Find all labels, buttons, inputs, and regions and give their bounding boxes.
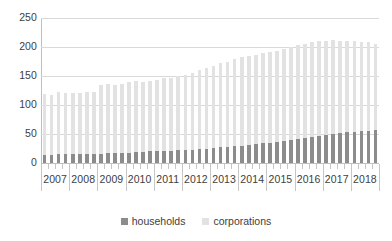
stacked-bar[interactable] bbox=[141, 18, 145, 163]
bar-segment-corporations[interactable] bbox=[64, 93, 68, 154]
stacked-bar[interactable] bbox=[268, 18, 272, 163]
bar-segment-corporations[interactable] bbox=[50, 95, 54, 155]
bar-segment-corporations[interactable] bbox=[212, 66, 216, 148]
stacked-bar[interactable] bbox=[331, 18, 335, 163]
bar-segment-households[interactable] bbox=[85, 154, 89, 163]
stacked-bar[interactable] bbox=[85, 18, 89, 163]
stacked-bar[interactable] bbox=[289, 18, 293, 163]
bar-segment-corporations[interactable] bbox=[78, 93, 82, 154]
bar-segment-corporations[interactable] bbox=[317, 41, 321, 136]
bar-segment-households[interactable] bbox=[317, 136, 321, 163]
bar-segment-households[interactable] bbox=[162, 151, 166, 163]
stacked-bar[interactable] bbox=[261, 18, 265, 163]
stacked-bar[interactable] bbox=[303, 18, 307, 163]
bar-segment-households[interactable] bbox=[155, 151, 159, 163]
bar-segment-households[interactable] bbox=[360, 131, 364, 163]
bar-segment-households[interactable] bbox=[331, 134, 335, 163]
stacked-bar[interactable] bbox=[247, 18, 251, 163]
stacked-bar[interactable] bbox=[155, 18, 159, 163]
stacked-bar[interactable] bbox=[148, 18, 152, 163]
bar-segment-corporations[interactable] bbox=[324, 41, 328, 136]
bar-segment-corporations[interactable] bbox=[353, 41, 357, 131]
bar-segment-corporations[interactable] bbox=[198, 70, 202, 149]
bar-segment-corporations[interactable] bbox=[113, 85, 117, 153]
bar-segment-households[interactable] bbox=[78, 154, 82, 163]
bar-segment-corporations[interactable] bbox=[247, 56, 251, 145]
stacked-bar[interactable] bbox=[43, 18, 47, 163]
bar-segment-corporations[interactable] bbox=[374, 44, 378, 130]
bar-segment-households[interactable] bbox=[99, 154, 103, 163]
stacked-bar[interactable] bbox=[296, 18, 300, 163]
bar-segment-households[interactable] bbox=[64, 154, 68, 163]
bar-segment-households[interactable] bbox=[219, 147, 223, 163]
bar-segment-corporations[interactable] bbox=[99, 85, 103, 153]
stacked-bar[interactable] bbox=[219, 18, 223, 163]
bar-segment-corporations[interactable] bbox=[191, 73, 195, 150]
stacked-bar[interactable] bbox=[212, 18, 216, 163]
stacked-bar[interactable] bbox=[240, 18, 244, 163]
bar-segment-corporations[interactable] bbox=[296, 45, 300, 139]
bar-segment-corporations[interactable] bbox=[205, 68, 209, 149]
bar-segment-households[interactable] bbox=[226, 147, 230, 163]
bar-segment-households[interactable] bbox=[233, 146, 237, 163]
stacked-bar[interactable] bbox=[198, 18, 202, 163]
stacked-bar[interactable] bbox=[317, 18, 321, 163]
bar-segment-households[interactable] bbox=[296, 139, 300, 163]
bar-segment-households[interactable] bbox=[198, 149, 202, 163]
bar-segment-corporations[interactable] bbox=[261, 53, 265, 143]
stacked-bar[interactable] bbox=[92, 18, 96, 163]
bar-segment-households[interactable] bbox=[289, 140, 293, 163]
bar-segment-households[interactable] bbox=[106, 153, 110, 163]
bar-segment-households[interactable] bbox=[247, 145, 251, 163]
bar-segment-households[interactable] bbox=[240, 146, 244, 163]
stacked-bar[interactable] bbox=[134, 18, 138, 163]
bar-segment-households[interactable] bbox=[268, 143, 272, 163]
stacked-bar[interactable] bbox=[205, 18, 209, 163]
bar-segment-corporations[interactable] bbox=[57, 92, 61, 154]
bar-segment-households[interactable] bbox=[43, 155, 47, 163]
stacked-bar[interactable] bbox=[113, 18, 117, 163]
stacked-bar[interactable] bbox=[64, 18, 68, 163]
bar-segment-corporations[interactable] bbox=[303, 44, 307, 139]
bar-segment-corporations[interactable] bbox=[43, 94, 47, 155]
bar-segment-corporations[interactable] bbox=[71, 93, 75, 154]
bar-segment-corporations[interactable] bbox=[219, 63, 223, 147]
stacked-bar[interactable] bbox=[360, 18, 364, 163]
bar-segment-households[interactable] bbox=[367, 131, 371, 163]
bar-segment-corporations[interactable] bbox=[169, 78, 173, 151]
bar-segment-corporations[interactable] bbox=[85, 92, 89, 155]
stacked-bar[interactable] bbox=[184, 18, 188, 163]
stacked-bar[interactable] bbox=[191, 18, 195, 163]
bar-segment-corporations[interactable] bbox=[268, 52, 272, 143]
bar-segment-corporations[interactable] bbox=[127, 82, 131, 152]
legend-item-households[interactable]: households bbox=[121, 215, 186, 227]
bar-segment-households[interactable] bbox=[303, 138, 307, 163]
bar-segment-corporations[interactable] bbox=[310, 42, 314, 137]
stacked-bar[interactable] bbox=[99, 18, 103, 163]
bar-segment-corporations[interactable] bbox=[141, 82, 145, 152]
bar-segment-corporations[interactable] bbox=[331, 40, 335, 134]
bar-segment-corporations[interactable] bbox=[226, 62, 230, 147]
bar-segment-corporations[interactable] bbox=[367, 42, 371, 130]
bar-segment-corporations[interactable] bbox=[155, 80, 159, 152]
bar-segment-households[interactable] bbox=[254, 144, 258, 163]
bar-segment-households[interactable] bbox=[275, 142, 279, 163]
bar-segment-households[interactable] bbox=[324, 135, 328, 163]
stacked-bar[interactable] bbox=[353, 18, 357, 163]
bar-segment-households[interactable] bbox=[141, 152, 145, 163]
bar-segment-households[interactable] bbox=[184, 150, 188, 163]
stacked-bar[interactable] bbox=[254, 18, 258, 163]
bar-segment-households[interactable] bbox=[345, 132, 349, 163]
stacked-bar[interactable] bbox=[374, 18, 378, 163]
stacked-bar[interactable] bbox=[162, 18, 166, 163]
bar-segment-corporations[interactable] bbox=[176, 76, 180, 150]
stacked-bar[interactable] bbox=[78, 18, 82, 163]
bar-segment-households[interactable] bbox=[176, 150, 180, 163]
bar-segment-corporations[interactable] bbox=[134, 81, 138, 152]
bar-segment-corporations[interactable] bbox=[233, 59, 237, 146]
stacked-bar[interactable] bbox=[338, 18, 342, 163]
bar-segment-households[interactable] bbox=[338, 133, 342, 163]
bar-segment-corporations[interactable] bbox=[106, 84, 110, 153]
bar-segment-corporations[interactable] bbox=[184, 75, 188, 150]
stacked-bar[interactable] bbox=[106, 18, 110, 163]
